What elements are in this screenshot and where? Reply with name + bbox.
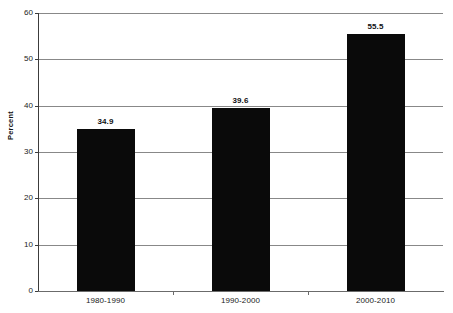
y-tick-label: 0: [0, 287, 33, 295]
x-tick-mark: [173, 292, 174, 295]
y-tick-label: 30: [0, 148, 33, 156]
y-tick-label: 60: [0, 9, 33, 17]
y-axis-title: Percent: [6, 111, 15, 140]
y-tick-label: 10: [0, 241, 33, 249]
bar-value-label: 39.6: [211, 96, 271, 105]
y-tick-label: 50: [0, 55, 33, 63]
y-tick-label: 40: [0, 102, 33, 110]
y-tick-label: 20: [0, 194, 33, 202]
bar: [212, 108, 270, 292]
bar-chart: Percent 0102030405060 34.939.655.5 1980-…: [0, 0, 453, 313]
bar-value-label: 55.5: [346, 22, 406, 31]
bar-value-label: 34.9: [76, 117, 136, 126]
plot-area: [38, 13, 443, 291]
bar: [77, 129, 135, 291]
gridline: [38, 13, 443, 14]
x-tick-mark: [308, 292, 309, 295]
x-category-label: 2000-2010: [331, 296, 421, 305]
x-axis-line: [38, 291, 444, 292]
bar: [347, 34, 405, 291]
x-category-label: 1980-1990: [61, 296, 151, 305]
y-axis-line: [38, 13, 39, 292]
x-category-label: 1990-2000: [196, 296, 286, 305]
